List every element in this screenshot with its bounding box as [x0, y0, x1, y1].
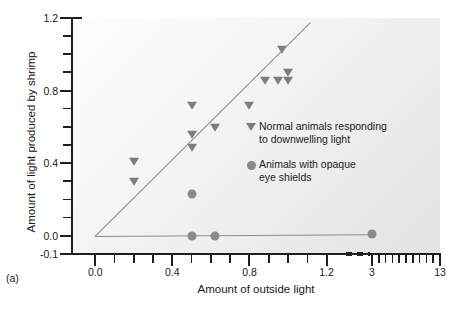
data-point-triangle — [283, 77, 293, 85]
x-axis-title: Amount of outside light — [72, 283, 440, 295]
x-tick-minor — [133, 255, 135, 263]
legend-label: Normal animals respondingto downwelling … — [259, 120, 387, 147]
panel-label: (a) — [6, 272, 19, 284]
data-point-triangle — [273, 77, 283, 85]
x-tick-minor — [398, 255, 400, 263]
y-tick-label: 0.4 — [43, 157, 58, 169]
x-tick-minor — [268, 255, 270, 263]
x-tick-minor — [210, 255, 212, 263]
x-tick-label: 1.2 — [319, 266, 334, 278]
x-tick-minor — [378, 255, 380, 263]
y-tick-minor — [63, 35, 72, 37]
x-axis-break-dashes — [346, 252, 370, 256]
x-tick-label: 3 — [369, 266, 375, 278]
x-tick-major — [248, 255, 250, 266]
x-tick-minor — [405, 255, 407, 263]
y-axis-title: Amount of light produced by shrimp — [25, 27, 37, 257]
x-tick-minor — [152, 255, 154, 263]
x-tick-label: 0.8 — [242, 266, 257, 278]
y-tick-major — [60, 17, 72, 19]
y-axis-top-cap — [71, 17, 82, 19]
x-tick-minor — [229, 255, 231, 263]
legend-entry: Normal animals respondingto downwelling … — [243, 120, 387, 147]
y-tick-major — [60, 90, 72, 92]
x-tick-minor — [114, 255, 116, 263]
y-tick-major — [60, 253, 72, 255]
y-tick-minor — [63, 199, 72, 201]
data-point-triangle — [210, 124, 220, 132]
x-tick-label: 0.0 — [88, 266, 103, 278]
legend-label: Animals with opaqueeye shields — [259, 158, 356, 185]
data-point-triangle — [244, 102, 254, 110]
x-tick-minor — [385, 255, 387, 263]
y-tick-minor — [63, 108, 72, 110]
y-tick-minor — [63, 126, 72, 128]
circle-icon — [243, 158, 259, 170]
data-point-triangle — [129, 158, 139, 166]
legend-label-line: Animals with opaque — [259, 158, 356, 171]
data-point-triangle — [283, 69, 293, 77]
legend-label-line: eye shields — [259, 171, 356, 184]
x-tick-minor — [287, 255, 289, 263]
x-tick-minor — [412, 255, 414, 263]
y-tick-label: 0.8 — [43, 85, 58, 97]
y-tick-label: 0.0 — [43, 230, 58, 242]
x-tick-minor — [191, 255, 193, 263]
legend-label-line: to downwelling light — [259, 133, 387, 146]
y-tick-minor — [63, 180, 72, 182]
x-tick-label: 0.4 — [165, 266, 180, 278]
x-tick-minor — [307, 255, 309, 263]
x-tick-minor — [439, 255, 441, 263]
data-point-triangle — [187, 102, 197, 110]
y-tick-minor — [63, 71, 72, 73]
x-tick-major — [94, 255, 96, 266]
x-tick-minor — [432, 255, 434, 263]
figure-panel: 1.20.80.40.0-0.10.00.40.81.2313 Amount o… — [0, 0, 454, 310]
y-tick-major — [60, 235, 72, 237]
y-tick-minor — [63, 144, 72, 146]
x-tick-major — [326, 255, 328, 266]
y-tick-minor — [63, 217, 72, 219]
data-point-triangle — [260, 77, 270, 85]
legend-entry: Animals with opaqueeye shields — [243, 158, 387, 185]
y-tick-label: -0.1 — [40, 248, 58, 260]
data-point-circle — [187, 190, 196, 199]
y-tick-minor — [63, 53, 72, 55]
data-point-triangle — [129, 178, 139, 186]
triangle-down-icon — [243, 120, 259, 131]
legend-label-line: Normal animals responding — [259, 120, 387, 133]
x-tick-major — [371, 255, 373, 266]
x-tick-major — [171, 255, 173, 266]
x-tick-minor — [392, 255, 394, 263]
y-tick-major — [60, 162, 72, 164]
y-tick-label: 1.2 — [43, 12, 58, 24]
legend: Normal animals respondingto downwelling … — [243, 120, 387, 196]
x-tick-minor — [419, 255, 421, 263]
x-tick-minor — [426, 255, 428, 263]
x-tick-label: 13 — [434, 266, 446, 278]
